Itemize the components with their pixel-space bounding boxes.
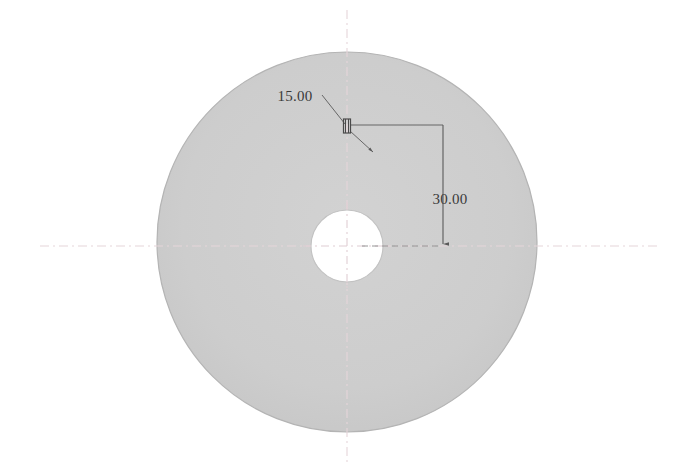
dimension-label-30: 30.00: [432, 191, 467, 207]
drawing-canvas: 15.00 30.00: [0, 0, 694, 467]
dimension-label-15: 15.00: [277, 88, 312, 104]
technical-drawing: 15.00 30.00: [0, 0, 694, 467]
